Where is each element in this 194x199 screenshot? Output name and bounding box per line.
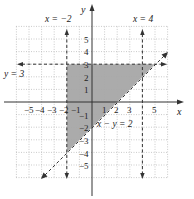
y-axis-label: y bbox=[80, 4, 86, 15]
arrow-left-icon bbox=[17, 62, 23, 66]
axes bbox=[4, 8, 180, 196]
y-tick: 1 bbox=[84, 85, 89, 95]
arrow-up-icon bbox=[65, 29, 69, 35]
arrow-right-icon bbox=[161, 62, 167, 66]
label-x-eq-neg2: x = −2 bbox=[44, 14, 72, 24]
y-tick: 4 bbox=[84, 47, 89, 57]
y-tick: −5 bbox=[79, 161, 89, 171]
x-tick: −2 bbox=[59, 105, 69, 115]
x-tick: 3 bbox=[127, 105, 132, 115]
y-tick: −2 bbox=[79, 123, 89, 133]
x-tick: −3 bbox=[47, 105, 57, 115]
inequality-graph: x y −5 −4 −3 −2 −1 1 2 3 5 5 4 3 2 1 −1 … bbox=[0, 0, 194, 199]
x-tick: −4 bbox=[35, 105, 45, 115]
y-axis-arrow-icon bbox=[90, 4, 95, 11]
y-tick: −1 bbox=[79, 111, 89, 121]
x-axis-label: x bbox=[176, 106, 182, 117]
y-tick: −4 bbox=[79, 149, 89, 159]
arrow-down-icon bbox=[140, 173, 144, 179]
x-axis-arrow-icon bbox=[177, 100, 184, 105]
x-tick: 2 bbox=[114, 105, 119, 115]
label-x-minus-y-eq-2: x − y = 2 bbox=[96, 119, 133, 129]
label-x-eq-4: x = 4 bbox=[132, 14, 153, 24]
x-tick: −5 bbox=[24, 105, 34, 115]
x-tick: 1 bbox=[102, 105, 107, 115]
x-tick: 5 bbox=[152, 105, 157, 115]
y-tick: 2 bbox=[84, 73, 89, 83]
y-tick: 3 bbox=[84, 60, 89, 70]
y-tick: −3 bbox=[79, 136, 89, 146]
label-y-eq-3: y = 3 bbox=[3, 69, 24, 79]
arrow-up-icon bbox=[140, 29, 144, 35]
y-tick: 5 bbox=[84, 35, 89, 45]
arrow-down-icon bbox=[65, 173, 69, 179]
